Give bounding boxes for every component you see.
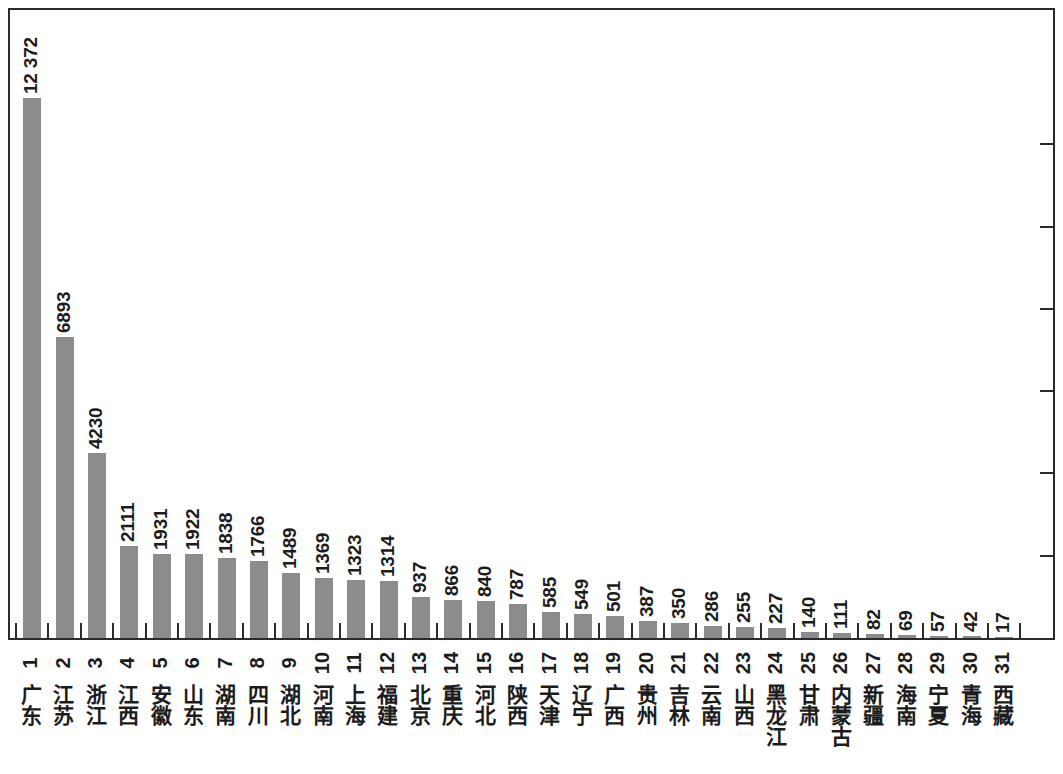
x-axis-tick [533,623,535,638]
bar [380,581,398,638]
x-axis-tick [890,623,892,638]
category-rank: 14 [436,644,466,682]
x-axis-tick [112,623,114,638]
bar [315,578,333,638]
bar-value-label: 350 [669,588,688,619]
x-axis-label-group: 1广东2江苏3浙江4江西5安徽6山东7湖南8四川9湖北10河南11上海12福建1… [8,642,1055,772]
category-name: 黑龙江 [760,684,790,770]
bar [444,600,462,638]
bar [833,633,851,638]
bar [736,627,754,638]
category-name: 浙江 [80,684,110,770]
category-name: 上海 [339,684,369,770]
x-axis-tick [501,623,503,638]
category-name: 河北 [469,684,499,770]
bar [412,597,430,638]
bar [768,628,786,638]
category-name: 河南 [307,684,337,770]
x-axis-tick [566,623,568,638]
category-rank: 19 [598,644,628,682]
chart-page: 12 3726893423021111931192218381766148913… [0,0,1063,774]
y-axis-tick [1040,308,1053,310]
y-axis-tick [1040,390,1053,392]
bar [88,453,106,638]
bar-value-label: 42 [961,611,980,632]
x-axis-tick [145,623,147,638]
bar [56,337,74,638]
category-name: 湖北 [274,684,304,770]
category-rank: 27 [858,644,888,682]
bar [801,632,819,638]
category-rank: 21 [663,644,693,682]
category-name: 江苏 [48,684,78,770]
x-axis-tick [695,623,697,638]
category-rank: 23 [728,644,758,682]
category-rank: 17 [534,644,564,682]
category-rank: 8 [242,644,272,682]
x-axis-tick [177,623,179,638]
bar-value-label: 1931 [151,508,170,549]
bar-value-label: 1323 [345,535,364,576]
category-rank: 15 [469,644,499,682]
category-name: 广西 [598,684,628,770]
x-axis-tick [663,623,665,638]
category-name: 海南 [890,684,920,770]
bar [23,98,41,638]
x-axis-tick [15,623,17,638]
category-rank: 5 [145,644,175,682]
x-axis-tick [598,623,600,638]
category-rank: 12 [372,644,402,682]
bar-value-label: 286 [702,590,721,621]
bar-value-label: 82 [864,610,883,631]
x-axis-tick [371,623,373,638]
category-rank: 18 [566,644,596,682]
bar-value-label: 227 [766,593,785,624]
bar-value-label: 387 [637,586,656,617]
bar-value-label: 866 [442,565,461,596]
bar [995,637,1013,639]
x-axis-tick [469,623,471,638]
x-axis-tick [339,623,341,638]
x-axis-tick [307,623,309,638]
category-name: 山东 [177,684,207,770]
bar-value-label: 937 [410,562,429,593]
x-axis-tick [825,623,827,638]
bar-value-label: 12 372 [21,37,40,94]
x-axis-tick [1019,623,1021,638]
category-rank: 26 [825,644,855,682]
category-rank: 20 [631,644,661,682]
x-axis-tick [728,623,730,638]
category-rank: 25 [793,644,823,682]
y-axis-tick [1040,472,1053,474]
bar-value-label: 787 [507,569,526,600]
x-axis-tick [274,623,276,638]
bar [898,635,916,638]
x-axis-tick [922,623,924,638]
bar-value-label: 17 [993,612,1012,633]
bar-value-label: 585 [540,577,559,608]
category-rank: 2 [48,644,78,682]
category-name: 福建 [372,684,402,770]
category-name: 北京 [404,684,434,770]
category-name: 吉林 [663,684,693,770]
category-rank: 6 [177,644,207,682]
y-axis-tick [1040,226,1053,228]
bar-value-label: 840 [475,566,494,597]
category-name: 内蒙古 [825,684,855,770]
x-axis-tick [631,623,633,638]
x-axis-tick [793,623,795,638]
y-axis-tick [1040,143,1053,145]
bar [282,573,300,638]
x-axis-tick [47,623,49,638]
bar [930,636,948,638]
category-rank: 3 [80,644,110,682]
bar-value-label: 4230 [86,408,105,449]
bar-value-label: 2111 [118,503,137,542]
bar-value-label: 1489 [280,528,299,569]
x-axis-tick [436,623,438,638]
bar [542,612,560,638]
bar-value-label: 1922 [183,509,202,550]
x-axis-tick [987,623,989,638]
category-name: 山西 [728,684,758,770]
category-name: 青海 [955,684,985,770]
